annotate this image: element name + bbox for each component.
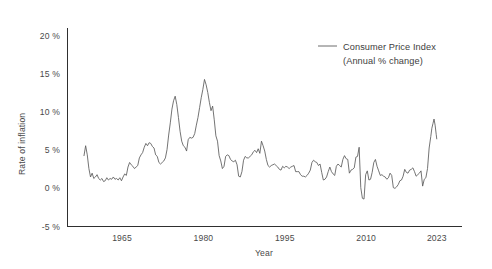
y-tick-label: 0 % — [0, 183, 60, 193]
inflation-chart: 20 % 15 % 10 % 5 % 0 % -5 % 1965 1980 19… — [0, 0, 492, 269]
y-tick-label: -5 % — [0, 222, 60, 232]
y-tick-label: 20 % — [0, 31, 60, 41]
x-tick-label: 1965 — [112, 233, 132, 243]
y-tick-label: 10 % — [0, 107, 60, 117]
y-tick-label: 5 % — [0, 145, 60, 155]
y-tick-label: 15 % — [0, 69, 60, 79]
chart-legend: Consumer Price Index (Annual % change) — [343, 41, 436, 68]
legend-label: Consumer Price Index — [343, 41, 436, 55]
x-axis-title: Year — [255, 248, 273, 258]
series-line-consumer-price-index — [84, 79, 437, 199]
x-tick-label: 1980 — [194, 233, 214, 243]
x-tick-label: 2023 — [427, 233, 447, 243]
x-tick-label: 2010 — [356, 233, 376, 243]
legend-sublabel: (Annual % change) — [343, 55, 436, 69]
y-axis-title: Rate of inflation — [17, 113, 27, 175]
x-tick-label: 1995 — [275, 233, 295, 243]
